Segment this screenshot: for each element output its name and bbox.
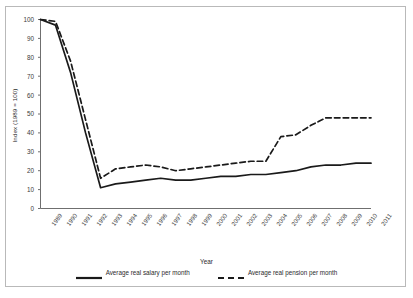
data-series-group xyxy=(41,20,372,188)
series-line-salary xyxy=(41,20,372,188)
axes-lines xyxy=(38,19,371,209)
legend-item-pension: Average real pension per month xyxy=(218,268,338,276)
chart-container: Index (1989 = 100) 010203040506070809010… xyxy=(0,0,413,298)
x-axis-title: Year xyxy=(0,258,413,265)
chart-legend: Average real salary per month Average re… xyxy=(0,268,413,276)
legend-swatch-dashed-icon xyxy=(218,268,244,276)
legend-swatch-solid-icon xyxy=(76,268,102,276)
legend-label-pension: Average real pension per month xyxy=(248,269,338,276)
series-line-pension xyxy=(41,20,372,179)
plot-area xyxy=(0,0,413,298)
legend-item-salary: Average real salary per month xyxy=(76,268,190,276)
legend-label-salary: Average real salary per month xyxy=(106,269,190,276)
